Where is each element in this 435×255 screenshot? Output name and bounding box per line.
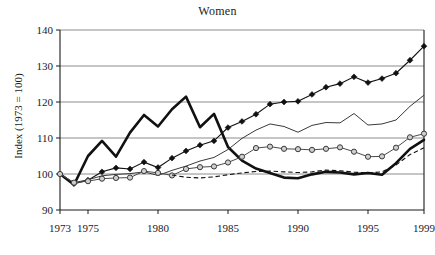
data-point-marker	[309, 92, 315, 98]
data-point-marker	[155, 170, 160, 175]
y-tick-label: 130	[37, 60, 54, 72]
x-tick-label: 1985	[217, 222, 240, 234]
data-point-marker	[281, 99, 287, 105]
y-tick-label: 140	[37, 24, 54, 36]
x-tick-label: 1980	[147, 222, 170, 234]
data-point-marker	[85, 179, 90, 184]
data-point-marker	[155, 165, 161, 171]
gridlines	[60, 30, 424, 174]
data-point-marker	[393, 145, 398, 150]
x-tick-labels: 1973197519801985199019951999	[49, 222, 435, 234]
data-point-marker	[267, 144, 272, 149]
data-point-marker	[365, 154, 370, 159]
data-point-marker	[197, 142, 203, 148]
series-line-thick-solid	[60, 97, 424, 185]
data-point-marker	[351, 74, 357, 80]
x-tick-label: 1999	[413, 222, 435, 234]
data-point-marker	[183, 166, 188, 171]
data-point-marker	[141, 169, 146, 174]
y-tick-label: 110	[37, 132, 54, 144]
x-tick-label: 1975	[77, 222, 100, 234]
data-point-marker	[323, 146, 328, 151]
x-tick-label: 1995	[357, 222, 380, 234]
series-line-filled-diamond	[60, 46, 424, 184]
data-point-marker	[183, 148, 189, 154]
data-point-marker	[239, 119, 245, 125]
x-tick-label: 1990	[287, 222, 310, 234]
data-point-marker	[127, 175, 132, 180]
data-point-marker	[351, 149, 356, 154]
data-point-marker	[127, 166, 133, 172]
y-tick-label: 90	[42, 204, 54, 216]
data-point-marker	[71, 180, 76, 185]
data-point-marker	[113, 165, 119, 171]
data-point-marker	[337, 81, 343, 87]
data-point-marker	[281, 146, 286, 151]
data-point-marker	[225, 160, 230, 165]
data-point-marker	[407, 135, 412, 140]
data-point-marker	[57, 171, 62, 176]
data-point-marker	[323, 84, 329, 90]
series-layer	[57, 43, 427, 186]
x-tick-label: 1973	[49, 222, 72, 234]
data-point-marker	[113, 175, 118, 180]
y-tick-label: 120	[37, 96, 54, 108]
data-point-marker	[379, 154, 384, 159]
data-point-marker	[169, 155, 175, 161]
y-tick-marks	[56, 30, 60, 210]
data-point-marker	[253, 145, 258, 150]
data-point-marker	[379, 76, 385, 82]
data-point-marker	[239, 154, 244, 159]
data-point-marker	[197, 165, 202, 170]
data-point-marker	[211, 164, 216, 169]
data-point-marker	[99, 176, 104, 181]
y-tick-label: 100	[37, 168, 54, 180]
data-point-marker	[421, 131, 426, 136]
x-tick-marks	[60, 210, 424, 214]
y-tick-labels: 90100110120130140	[37, 24, 54, 216]
data-point-marker	[365, 80, 371, 86]
data-point-marker	[295, 98, 301, 104]
data-point-marker	[295, 147, 300, 152]
chart-container: Women Index (1973 = 100) 901001101201301…	[0, 0, 435, 255]
data-point-marker	[141, 159, 147, 165]
plot-area: 90100110120130140 1973197519801985199019…	[0, 0, 435, 255]
data-point-marker	[309, 147, 314, 152]
data-point-marker	[337, 145, 342, 150]
